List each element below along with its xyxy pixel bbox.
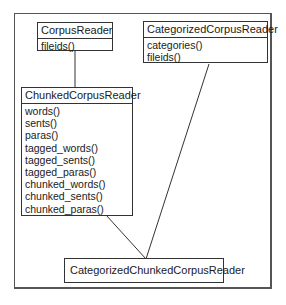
method: words() xyxy=(25,105,129,117)
method: categories() xyxy=(147,39,264,51)
method: fileids() xyxy=(147,51,264,63)
method: fileids() xyxy=(41,40,109,52)
class-name: CategorizedChunkedCorpusReader xyxy=(65,259,223,282)
link-catchunked-to-chunked xyxy=(106,215,146,259)
method: chunked_sents() xyxy=(25,190,129,202)
class-categorized-corpus-reader: CategorizedCorpusReader categories() fil… xyxy=(143,21,268,63)
class-name: CorpusReader xyxy=(38,23,112,39)
method: sents() xyxy=(25,117,129,129)
class-categorized-chunked-corpus-reader: CategorizedChunkedCorpusReader xyxy=(64,258,224,283)
class-corpus-reader: CorpusReader fileids() xyxy=(37,22,113,51)
method-list: categories() fileids() xyxy=(144,38,267,65)
method-list: fileids() xyxy=(38,39,112,54)
method-list: words() sents() paras() tagged_words() t… xyxy=(22,104,132,217)
method: tagged_paras() xyxy=(25,166,129,178)
method: tagged_sents() xyxy=(25,154,129,166)
link-catchunked-to-categorized xyxy=(146,64,209,259)
class-name: ChunkedCorpusReader xyxy=(22,88,132,104)
method: chunked_paras() xyxy=(25,203,129,215)
class-chunked-corpus-reader: ChunkedCorpusReader words() sents() para… xyxy=(21,87,133,216)
method: paras() xyxy=(25,129,129,141)
method: tagged_words() xyxy=(25,142,129,154)
class-name: CategorizedCorpusReader xyxy=(144,22,267,38)
method: chunked_words() xyxy=(25,178,129,190)
